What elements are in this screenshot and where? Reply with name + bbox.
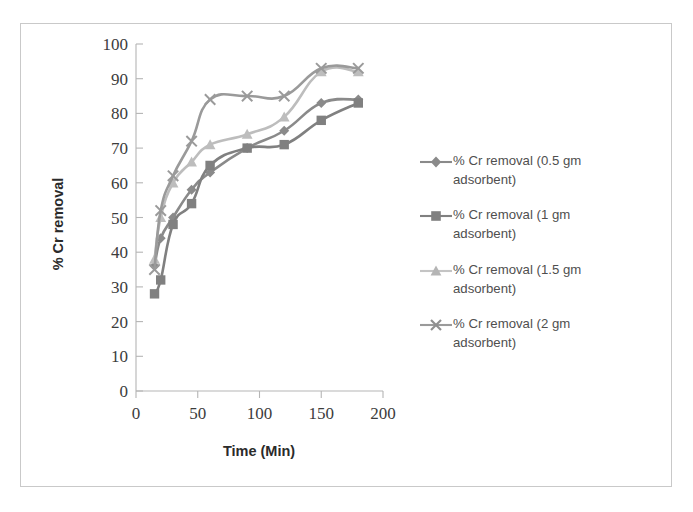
y-axis <box>136 44 143 391</box>
triangle-marker-icon <box>419 262 453 280</box>
figure-frame: 100 90 80 70 60 50 40 30 20 10 0 0 50 10… <box>20 23 672 487</box>
series-line <box>155 99 359 266</box>
y-tick-label: 90 <box>111 70 128 89</box>
y-tick-label: 60 <box>111 174 128 193</box>
series-marker <box>280 140 289 149</box>
series-marker <box>242 143 251 152</box>
y-tick-label: 70 <box>111 139 128 158</box>
x-tick-labels: 0 50 100 150 200 <box>132 404 396 423</box>
square-marker-icon <box>419 207 453 225</box>
data-series <box>149 63 363 275</box>
x-tick-label: 50 <box>189 404 206 423</box>
series-marker <box>205 94 215 104</box>
legend-item-1[interactable]: % Cr removal (1 gm adsorbent) <box>419 206 669 243</box>
series-marker <box>317 116 326 125</box>
y-tick-label: 80 <box>111 104 128 123</box>
cross-marker-icon <box>419 316 453 334</box>
x-tick-label: 100 <box>247 404 273 423</box>
series-marker <box>168 220 177 229</box>
series-marker <box>354 98 363 107</box>
legend-item-3[interactable]: % Cr removal (2 gm adsorbent) <box>419 315 669 352</box>
data-series-layer <box>149 63 364 298</box>
x-tick-label: 200 <box>370 404 396 423</box>
legend-item-label: % Cr removal (2 gm adsorbent) <box>453 315 603 352</box>
x-axis-title: Time (Min) <box>223 443 295 459</box>
series-marker <box>205 161 214 170</box>
legend-item-label: % Cr removal (1.5 gm adsorbent) <box>453 261 603 298</box>
y-tick-label: 40 <box>111 243 128 262</box>
legend-item-0[interactable]: % Cr removal (0.5 gm adsorbent) <box>419 152 669 189</box>
y-tick-label: 50 <box>111 209 128 228</box>
x-axis <box>136 391 383 398</box>
diamond-marker-icon <box>419 153 453 171</box>
series-marker <box>186 136 196 146</box>
y-axis-title: % Cr removal <box>50 178 66 271</box>
series-marker <box>150 289 159 298</box>
data-series <box>150 98 363 298</box>
chart-legend: % Cr removal (0.5 gm adsorbent) % Cr rem… <box>419 152 669 370</box>
legend-item-label: % Cr removal (0.5 gm adsorbent) <box>453 152 603 189</box>
series-marker <box>156 275 165 284</box>
y-tick-label: 10 <box>111 347 128 366</box>
x-tick-label: 0 <box>132 404 141 423</box>
y-tick-label: 100 <box>103 35 129 54</box>
legend-item-2[interactable]: % Cr removal (1.5 gm adsorbent) <box>419 261 669 298</box>
y-tick-labels: 100 90 80 70 60 50 40 30 20 10 0 <box>103 35 129 401</box>
x-tick-label: 150 <box>309 404 335 423</box>
series-marker <box>316 98 326 108</box>
y-tick-label: 30 <box>111 278 128 297</box>
data-series <box>150 95 364 272</box>
series-marker <box>187 199 196 208</box>
y-tick-label: 0 <box>120 382 129 401</box>
legend-item-label: % Cr removal (1 gm adsorbent) <box>453 206 603 243</box>
y-tick-label: 20 <box>111 313 128 332</box>
